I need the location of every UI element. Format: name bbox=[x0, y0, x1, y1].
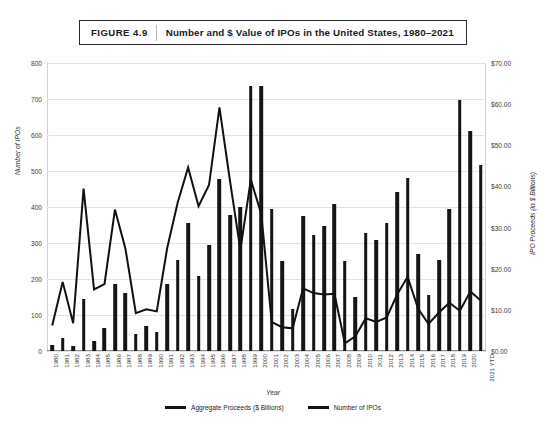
y-tick-label: 300 bbox=[31, 240, 42, 247]
x-tick-label: 2014 bbox=[411, 340, 418, 354]
x-tick-label: 2002 bbox=[286, 340, 293, 354]
x-tick-label: 2015 bbox=[422, 340, 429, 354]
x-tick-label: 2004 bbox=[307, 340, 314, 354]
legend-bar-swatch-icon bbox=[165, 406, 186, 409]
x-tick-label: 2006 bbox=[328, 340, 335, 354]
x-tick-label: 1998 bbox=[244, 340, 251, 354]
figure-caption: FIGURE 4.9 Number and $ Value of IPOs in… bbox=[79, 20, 467, 45]
x-tick-label: 1994 bbox=[202, 340, 209, 354]
x-tick-label: 1981 bbox=[67, 340, 74, 354]
legend-label: Number of IPOs bbox=[334, 404, 381, 411]
chart-legend: Aggregate Proceeds ($ Billions)Number of… bbox=[0, 404, 546, 411]
legend-label: Aggregate Proceeds ($ Billions) bbox=[191, 404, 284, 411]
figure-title: Number and $ Value of IPOs in the United… bbox=[157, 27, 460, 38]
line-series-ipo-count bbox=[47, 63, 486, 351]
y2-axis-title: IPO Proceeds (in $ Billions) bbox=[529, 172, 536, 255]
x-tick-label: 1984 bbox=[98, 340, 105, 354]
legend-item: Aggregate Proceeds ($ Billions) bbox=[165, 404, 284, 411]
x-tick-label: 2018 bbox=[453, 340, 460, 354]
x-tick-label: 1997 bbox=[234, 340, 241, 354]
x-tick-label: 1985 bbox=[108, 340, 115, 354]
x-tick-label: 1995 bbox=[213, 340, 220, 354]
x-tick-label: 2003 bbox=[297, 340, 304, 354]
x-tick-label: 1990 bbox=[161, 340, 168, 354]
y-tick-label: 800 bbox=[31, 60, 42, 67]
y-tick-label: 100 bbox=[31, 312, 42, 319]
x-tick-label: 1987 bbox=[129, 340, 136, 354]
y2-tick-label: $50.00 bbox=[491, 142, 511, 149]
x-tick-label: 2017 bbox=[443, 340, 450, 354]
legend-line-swatch-icon bbox=[308, 406, 329, 408]
x-tick-label: 2005 bbox=[317, 340, 324, 354]
y-tick-label: 600 bbox=[31, 132, 42, 139]
x-tick-label: 1991 bbox=[171, 340, 178, 354]
ipo-count-line bbox=[52, 107, 481, 343]
x-tick-label: 2010 bbox=[370, 340, 377, 354]
y-tick-label: 0 bbox=[38, 348, 42, 355]
x-axis-title: Year bbox=[0, 389, 546, 396]
x-tick-label: 2011 bbox=[380, 341, 387, 354]
x-tick-label: 2020 bbox=[474, 340, 481, 354]
x-tick-label: 1999 bbox=[255, 340, 262, 354]
y2-tick-label: $30.00 bbox=[491, 224, 511, 231]
y-tick-label: 500 bbox=[31, 168, 42, 175]
x-tick-label: 2012 bbox=[391, 340, 398, 354]
y2-tick-label: $40.00 bbox=[491, 183, 511, 190]
x-tick-label: 1986 bbox=[119, 340, 126, 354]
x-tick-label: 1993 bbox=[192, 340, 199, 354]
figure-root: FIGURE 4.9 Number and $ Value of IPOs in… bbox=[0, 0, 546, 429]
y-tick-label: 400 bbox=[31, 204, 42, 211]
y-tick-label: 200 bbox=[31, 276, 42, 283]
y2-tick-label: $20.00 bbox=[491, 265, 511, 272]
figure-number: FIGURE 4.9 bbox=[80, 27, 156, 38]
y2-tick-label: $60.00 bbox=[491, 101, 511, 108]
y-tick-label: 700 bbox=[31, 96, 42, 103]
x-tick-label: 2000 bbox=[265, 340, 272, 354]
y2-tick-label: $70.00 bbox=[491, 60, 511, 67]
x-tick-label: 2019 bbox=[464, 340, 471, 354]
x-tick-label: 2021 YTD bbox=[492, 326, 499, 354]
x-tick-label: 1980 bbox=[56, 340, 63, 354]
x-tick-label: 1996 bbox=[223, 340, 230, 354]
legend-item: Number of IPOs bbox=[308, 404, 381, 411]
x-tick-label: 2016 bbox=[432, 340, 439, 354]
x-tick-label: 2013 bbox=[401, 340, 408, 354]
x-tick-label: 2009 bbox=[359, 340, 366, 354]
x-tick-label: 2001 bbox=[276, 340, 283, 354]
x-tick-label: 1982 bbox=[77, 340, 84, 354]
x-tick-label: 1992 bbox=[182, 340, 189, 354]
x-tick-label: 2007 bbox=[338, 340, 345, 354]
plot-area: 0100200300400500600700800 $0.00$10.00$20… bbox=[47, 63, 486, 351]
x-tick-label: 1983 bbox=[87, 340, 94, 354]
x-tick-label: 1988 bbox=[140, 340, 147, 354]
x-tick-label: 2008 bbox=[349, 340, 356, 354]
x-tick-label: 1989 bbox=[150, 340, 157, 354]
y-axis-title: Number of IPOs bbox=[14, 126, 21, 175]
y2-tick-label: $10.00 bbox=[491, 306, 511, 313]
